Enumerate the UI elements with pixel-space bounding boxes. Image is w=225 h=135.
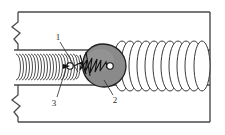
callout-label-1: 1 bbox=[56, 32, 61, 42]
break-mark-bottom-left bbox=[12, 85, 20, 122]
callout-label-3: 3 bbox=[52, 98, 57, 108]
callout-label-2: 2 bbox=[113, 95, 118, 105]
break-mark-top-left bbox=[12, 12, 20, 50]
technical-diagram: 1 2 3 bbox=[0, 0, 225, 135]
diagram-canvas: 1 2 3 bbox=[0, 0, 225, 135]
large-helical-coils-right bbox=[113, 41, 210, 91]
